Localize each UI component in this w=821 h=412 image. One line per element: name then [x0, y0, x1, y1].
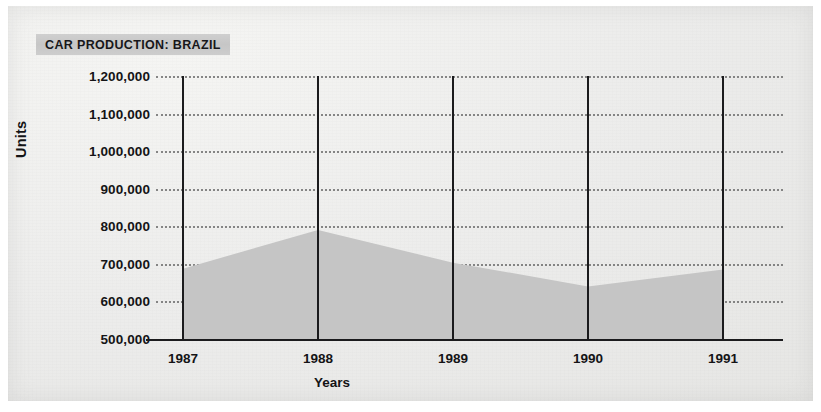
year-line-1987: [182, 76, 184, 341]
x-tick-label-1989: 1989: [408, 351, 498, 366]
year-line-1991: [722, 76, 724, 341]
year-line-1989: [452, 76, 454, 341]
x-tick-label-1990: 1990: [543, 351, 633, 366]
x-axis-label: Years: [272, 375, 392, 390]
year-line-1990: [587, 76, 589, 341]
plot-area: Units 1,200,0001,100,0001,000,000900,000…: [8, 6, 813, 401]
x-tick-label-1991: 1991: [678, 351, 768, 366]
x-tick-label-1987: 1987: [138, 351, 228, 366]
area-series-svg: [8, 6, 813, 401]
scanned-page-panel: CAR PRODUCTION: BRAZIL Units 1,200,0001,…: [8, 6, 813, 401]
chart-screenshot: CAR PRODUCTION: BRAZIL Units 1,200,0001,…: [0, 0, 821, 412]
year-line-1988: [317, 76, 319, 341]
x-axis-baseline: [146, 339, 783, 341]
x-tick-label-1988: 1988: [273, 351, 363, 366]
